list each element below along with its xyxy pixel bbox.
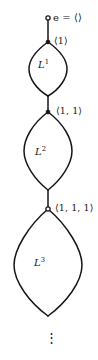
vertical-ellipsis-icon: ⋮ <box>45 331 58 344</box>
lens-L3-right-arc <box>48 209 82 316</box>
node-label-n11: ⟨1, 1⟩ <box>56 106 82 116</box>
region-label-L2: L2 <box>35 147 46 157</box>
region-label-L2-base: L <box>35 146 42 157</box>
lens-chain-figure: e = ⟨⟩ ⟨1⟩ ⟨1, 1⟩ ⟨1, 1, 1⟩ L1 L2 L3 ⋮ <box>0 0 98 360</box>
node-label-root: e = ⟨⟩ <box>53 13 82 23</box>
region-label-L2-exponent: 2 <box>42 145 46 153</box>
diagram-canvas <box>0 0 98 360</box>
lens-L1-right-arc <box>48 42 67 96</box>
region-label-L3: L3 <box>34 258 45 268</box>
region-label-L1-base: L <box>38 59 45 70</box>
region-label-L3-exponent: 3 <box>41 256 45 264</box>
node-marker-root <box>46 16 50 20</box>
node-marker-n11 <box>46 110 50 114</box>
region-label-L1-exponent: 1 <box>45 58 49 66</box>
node-label-n1: ⟨1⟩ <box>54 36 68 46</box>
lens-L2-right-arc <box>48 112 72 190</box>
node-marker-n111 <box>46 207 50 211</box>
region-label-L1: L1 <box>38 60 49 70</box>
node-marker-n1 <box>46 40 50 44</box>
region-label-L3-base: L <box>34 257 41 268</box>
node-label-n111: ⟨1, 1, 1⟩ <box>55 203 94 213</box>
